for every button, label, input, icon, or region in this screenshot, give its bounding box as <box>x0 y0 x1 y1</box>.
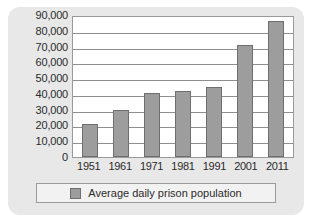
legend-label: Average daily prison population <box>88 187 241 199</box>
x-axis-tick-label: 1991 <box>199 160 229 172</box>
y-axis-tick-label: 0 <box>14 152 68 163</box>
y-axis-tick-label: 80,000 <box>14 26 68 37</box>
y-axis-tick-label: 30,000 <box>14 105 68 116</box>
bar <box>268 21 284 157</box>
y-axis-tick-label: 10,000 <box>14 136 68 147</box>
x-axis-tick-label: 1961 <box>105 160 135 172</box>
y-axis-tick-label: 20,000 <box>14 120 68 131</box>
y-axis-tick-label: 90,000 <box>14 10 68 21</box>
bar <box>175 91 191 157</box>
y-axis: 010,00020,00030,00040,00050,00060,00070,… <box>14 13 70 161</box>
legend-swatch-icon <box>70 188 81 199</box>
plot-area <box>72 16 294 158</box>
chart-legend: Average daily prison population <box>36 183 276 203</box>
bar <box>113 110 129 157</box>
bar <box>206 87 222 157</box>
chart-card: 010,00020,00030,00040,00050,00060,00070,… <box>8 7 304 215</box>
bar <box>144 93 160 157</box>
y-axis-tick-label: 50,000 <box>14 73 68 84</box>
x-axis-tick-label: 1971 <box>137 160 167 172</box>
bar-chart: 010,00020,00030,00040,00050,00060,00070,… <box>14 13 298 173</box>
legend-item-average-daily-prison-population: Average daily prison population <box>70 187 241 199</box>
x-axis-tick-label: 1981 <box>168 160 198 172</box>
bars-group <box>73 17 293 157</box>
y-axis-tick-label: 70,000 <box>14 42 68 53</box>
y-axis-tick-label: 60,000 <box>14 57 68 68</box>
x-axis-tick-label: 2001 <box>231 160 261 172</box>
y-axis-tick-label: 40,000 <box>14 89 68 100</box>
bar <box>82 124 98 157</box>
x-axis-tick-label: 2011 <box>262 160 292 172</box>
bar <box>237 45 253 157</box>
x-axis-tick-label: 1951 <box>74 160 104 172</box>
x-axis: 1951196119711981199120012011 <box>72 160 294 174</box>
